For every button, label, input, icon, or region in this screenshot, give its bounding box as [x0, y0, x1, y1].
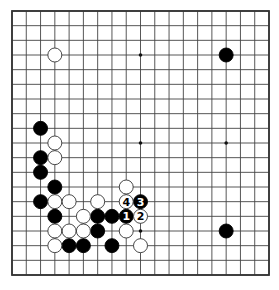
white-stone: [62, 195, 76, 209]
black-stone: [48, 180, 62, 194]
black-stone: [219, 48, 233, 62]
black-stone: [48, 209, 62, 223]
white-stone: [48, 48, 62, 62]
white-stone: [48, 151, 62, 165]
black-stone: [76, 239, 90, 253]
black-stone: [219, 224, 233, 238]
white-stone: [134, 239, 148, 253]
star-point: [139, 53, 143, 57]
white-stone: 2: [134, 209, 148, 223]
star-point: [139, 229, 143, 233]
stones-layer: 1342: [34, 48, 234, 253]
black-stone: 1: [119, 209, 133, 223]
white-stone: [76, 224, 90, 238]
black-stone: [34, 121, 48, 135]
white-stone: [91, 195, 105, 209]
black-stone: [105, 209, 119, 223]
white-stone: [48, 224, 62, 238]
go-board: 1342: [0, 0, 279, 290]
black-stone: 3: [134, 195, 148, 209]
white-stone: [48, 239, 62, 253]
black-stone: [91, 224, 105, 238]
white-stone: [119, 224, 133, 238]
star-point: [139, 141, 143, 145]
black-stone: [91, 209, 105, 223]
black-stone: [34, 165, 48, 179]
move-number-label: 1: [122, 210, 130, 223]
move-number-label: 2: [137, 210, 145, 223]
white-stone: 4: [119, 195, 133, 209]
black-stone: [34, 195, 48, 209]
white-stone: [48, 195, 62, 209]
move-number-label: 3: [137, 196, 145, 209]
white-stone: [76, 209, 90, 223]
white-stone: [48, 136, 62, 150]
black-stone: [62, 239, 76, 253]
black-stone: [34, 151, 48, 165]
black-stone: [105, 239, 119, 253]
white-stone: [62, 224, 76, 238]
white-stone: [119, 180, 133, 194]
move-number-label: 4: [122, 196, 130, 209]
star-point: [224, 141, 228, 145]
